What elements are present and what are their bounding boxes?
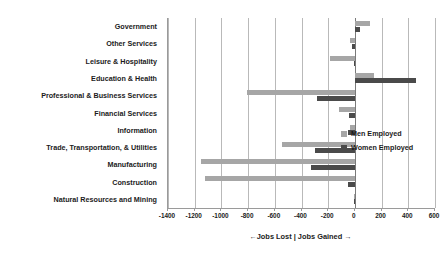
bar-women [348, 182, 355, 187]
bar-men [201, 159, 355, 164]
bar-men [355, 21, 370, 26]
x-axis-tick [407, 208, 408, 211]
bar-women [352, 44, 355, 49]
legend-item-women: Women Employed [341, 142, 413, 153]
category-label: Education & Health [0, 74, 157, 83]
bar-men [339, 107, 355, 112]
bar-men [355, 73, 374, 78]
x-axis-title: ←Jobs Lost | Jobs Gained → [167, 232, 434, 241]
legend-label-women: Women Employed [351, 142, 413, 153]
x-axis-tick [220, 208, 221, 211]
legend-swatch-men-icon [341, 131, 347, 137]
chart-legend: Men Employed Women Employed [341, 128, 413, 156]
category-label: Manufacturing [0, 160, 157, 169]
x-axis-tick [327, 208, 328, 211]
legend-label-men: Men Employed [351, 128, 402, 139]
plot-area [167, 18, 434, 208]
category-label: Other Services [0, 39, 157, 48]
bar-men [205, 176, 355, 181]
bar-women [354, 199, 355, 204]
bar-women [349, 113, 355, 118]
legend-item-men: Men Employed [341, 128, 413, 139]
x-axis-tick [434, 208, 435, 211]
bar-women [311, 165, 355, 170]
legend-swatch-women-icon [341, 145, 347, 151]
category-label: Government [0, 22, 157, 31]
x-axis-tick-label: 600 [414, 212, 444, 219]
gridline [408, 18, 409, 208]
gridline [195, 18, 196, 208]
bar-women [317, 96, 355, 101]
category-label: Construction [0, 178, 157, 187]
gridline [435, 18, 436, 208]
category-label: Leisure & Hospitality [0, 57, 157, 66]
x-axis-tick [274, 208, 275, 211]
category-label: Professional & Business Services [0, 91, 157, 100]
bar-men [350, 38, 355, 43]
x-axis-tick [247, 208, 248, 211]
bar-women [355, 78, 416, 83]
bar-men [330, 56, 355, 61]
zero-gridline [355, 18, 356, 208]
x-axis-tick [381, 208, 382, 211]
category-label: Trade, Transportation, & Utilities [0, 143, 157, 152]
bar-men [354, 194, 355, 199]
bar-women [355, 27, 360, 32]
gridline [168, 18, 169, 208]
x-axis-tick [194, 208, 195, 211]
bar-men [247, 90, 354, 95]
gridline [382, 18, 383, 208]
category-axis-labels: GovernmentOther ServicesLeisure & Hospit… [0, 18, 163, 208]
x-axis-tick [354, 208, 355, 211]
category-label: Information [0, 126, 157, 135]
x-axis-tick [167, 208, 168, 211]
x-axis-tick [301, 208, 302, 211]
bar-women [354, 61, 355, 66]
category-label: Natural Resources and Mining [0, 195, 157, 204]
category-label: Financial Services [0, 109, 157, 118]
